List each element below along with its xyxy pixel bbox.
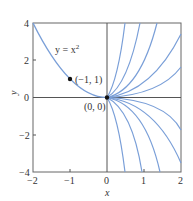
y-axis-label: y: [8, 90, 19, 96]
point1-label: (−1, 1): [75, 74, 102, 86]
x-tick-0: 0: [104, 175, 109, 186]
y-tick-4: 4: [24, 18, 29, 29]
y-tick-neg2: −2: [19, 130, 30, 141]
x-tick-1: 1: [141, 175, 146, 186]
point-origin: [105, 95, 109, 99]
point-neg1-1: [68, 77, 72, 81]
point2-label: (0, 0): [84, 101, 106, 113]
x-axis-label: x: [104, 187, 110, 198]
x-tick-neg2: −2: [27, 175, 38, 186]
curve-label: y = x2: [55, 43, 80, 55]
y-tick-0: 0: [24, 92, 29, 103]
x-tick-neg1: −1: [64, 175, 75, 186]
upper-curves: [107, 23, 181, 98]
chart: y = x2 (−1, 1) (0, 0) 4 2 0 −2 −4 −2 −1 …: [0, 0, 193, 201]
y-tick-2: 2: [24, 55, 29, 66]
x-tick-2: 2: [178, 175, 183, 186]
parabola-curve: [33, 23, 107, 98]
lower-curves: [107, 98, 181, 173]
